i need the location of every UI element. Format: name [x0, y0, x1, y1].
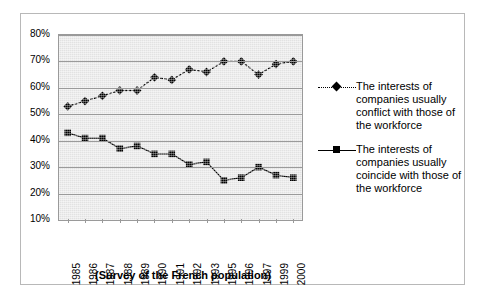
legend-label-coincide: The interests of companies usually coinc…: [356, 143, 463, 195]
gridline: [59, 141, 302, 142]
data-point-square: [273, 172, 280, 179]
data-point-square: [169, 151, 176, 158]
chart-legend: The interests of companies usually confl…: [318, 80, 463, 206]
data-point-square: [64, 130, 71, 137]
x-tick: [259, 219, 260, 223]
y-tick-label: 10%: [30, 214, 50, 224]
x-tick: [102, 219, 103, 223]
y-tick-label: 50%: [30, 108, 50, 118]
legend-label-conflict: The interests of companies usually confl…: [356, 80, 463, 132]
series-line: [68, 61, 294, 106]
legend-item-conflict: The interests of companies usually confl…: [318, 80, 463, 132]
x-tick: [137, 219, 138, 223]
y-axis-labels: 80%70%60%50%40%30%20%10%: [21, 34, 54, 221]
y-tick-label: 40%: [30, 135, 50, 145]
data-point-square: [203, 159, 210, 166]
data-point-square: [290, 174, 297, 181]
x-tick: [68, 219, 69, 223]
gridline: [59, 194, 302, 195]
gridline: [59, 167, 302, 168]
data-point-diamond: [202, 68, 211, 77]
y-tick-label: 70%: [30, 55, 50, 65]
data-point-square: [117, 145, 124, 152]
legend-item-coincide: The interests of companies usually coinc…: [318, 143, 463, 195]
gridline: [59, 114, 302, 115]
y-tick-label: 80%: [30, 29, 50, 39]
gridline: [59, 35, 302, 36]
y-tick-label: 60%: [30, 82, 50, 92]
chart-caption: (Survey of the French population): [58, 269, 308, 281]
gridline: [59, 61, 302, 62]
x-tick: [207, 219, 208, 223]
x-tick: [189, 219, 190, 223]
data-point-square: [221, 177, 228, 184]
y-tick-label: 30%: [30, 161, 50, 171]
x-tick: [172, 219, 173, 223]
data-point-diamond: [98, 91, 107, 100]
data-point-diamond: [167, 76, 176, 85]
data-point-square: [151, 151, 158, 158]
plot-area: [58, 34, 303, 221]
x-tick: [154, 219, 155, 223]
series-layer: [59, 35, 302, 220]
data-point-square: [238, 174, 245, 181]
x-tick: [120, 219, 121, 223]
x-tick: [224, 219, 225, 223]
x-tick: [241, 219, 242, 223]
x-tick: [85, 219, 86, 223]
chart-figure: 80%70%60%50%40%30%20%10% 198519861987198…: [20, 13, 465, 285]
gridline: [59, 88, 302, 89]
legend-key-square-icon: [318, 144, 356, 156]
x-axis-labels: 1985198619871988198919901991199219931995…: [58, 223, 303, 267]
data-point-diamond: [63, 102, 72, 111]
data-point-diamond: [185, 65, 194, 74]
x-tick: [293, 219, 294, 223]
data-point-diamond: [81, 97, 90, 106]
legend-key-diamond-icon: [318, 81, 356, 93]
x-tick: [276, 219, 277, 223]
data-point-square: [134, 143, 141, 150]
y-tick-label: 20%: [30, 188, 50, 198]
